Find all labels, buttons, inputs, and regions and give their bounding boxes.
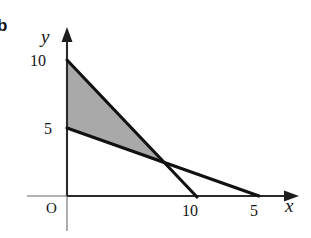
y-tick-label-5: 5 [44,121,52,137]
y-axis-arrow-icon [62,27,73,42]
x-tick-label-10: 10 [182,203,198,219]
shallow-constraint-line [67,128,259,196]
y-tick-label-10: 10 [30,53,46,69]
y-axis-label: y [41,27,49,46]
x-tick-label-5: 5 [250,203,258,219]
x-axis-label: x [285,196,293,215]
origin-label: O [46,201,57,216]
figure-root: b y x 10 5 10 5 O [0,0,311,238]
